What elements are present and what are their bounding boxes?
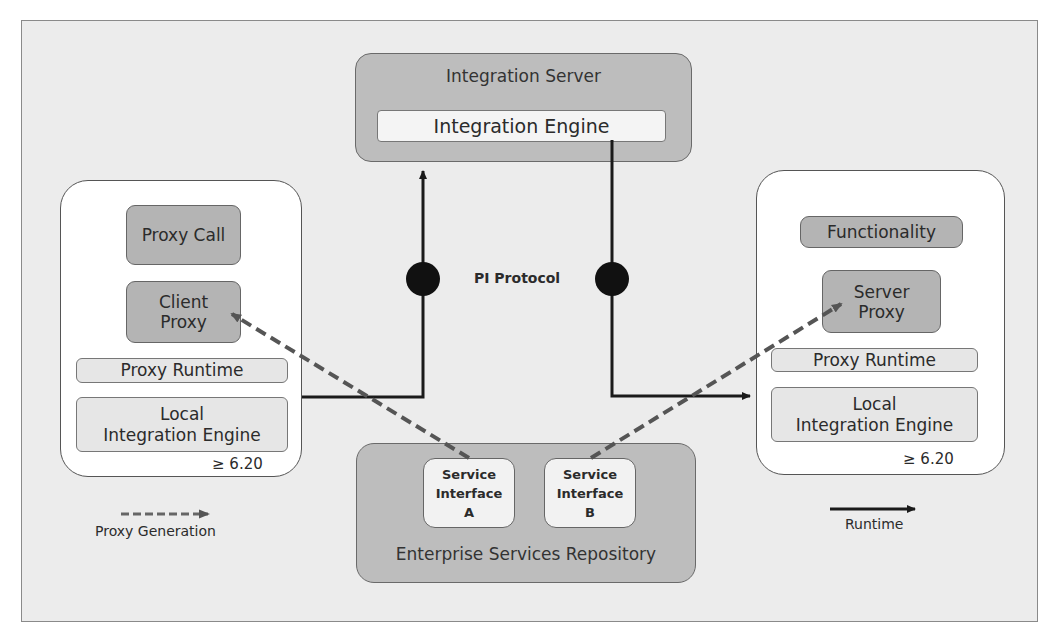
legend-proxy-generation-label: Proxy Generation: [95, 523, 216, 539]
client-local-engine-label-1: Local: [160, 404, 204, 425]
functionality-label: Functionality: [827, 222, 936, 242]
server-proxy-label-2: Proxy: [858, 302, 905, 322]
server-proxy-label-1: Server: [854, 282, 910, 302]
client-proxy-label-2: Proxy: [160, 312, 207, 332]
client-version-label: ≥ 6.20: [212, 455, 263, 473]
service-interface-a: Service Interface A: [423, 458, 515, 528]
proxy-call-box: Proxy Call: [126, 205, 241, 265]
service-interface-a-line2: Interface: [424, 484, 514, 503]
repository-title: Enterprise Services Repository: [357, 544, 695, 564]
client-proxy-runtime: Proxy Runtime: [76, 358, 288, 383]
client-proxy-box: Client Proxy: [126, 281, 241, 343]
service-interface-b-line3: B: [545, 503, 635, 522]
legend-runtime-label: Runtime: [845, 516, 903, 532]
integration-server-title: Integration Server: [356, 66, 691, 86]
service-interface-b-line1: Service: [545, 465, 635, 484]
integration-server: Integration Server Integration Engine: [355, 53, 692, 162]
integration-engine: Integration Engine: [377, 110, 666, 142]
service-interface-a-line1: Service: [424, 465, 514, 484]
server-local-engine-label-2: Integration Engine: [796, 415, 953, 436]
functionality-box: Functionality: [800, 216, 963, 248]
proxy-call-label: Proxy Call: [142, 225, 226, 245]
client-proxy-runtime-label: Proxy Runtime: [121, 360, 244, 381]
service-interface-b-line2: Interface: [545, 484, 635, 503]
client-local-engine-label-2: Integration Engine: [103, 425, 260, 446]
server-local-integration-engine: Local Integration Engine: [771, 387, 978, 442]
server-proxy-runtime: Proxy Runtime: [771, 348, 978, 372]
client-proxy-label-1: Client: [159, 292, 208, 312]
service-interface-a-line3: A: [424, 503, 514, 522]
server-proxy-runtime-label: Proxy Runtime: [813, 350, 936, 371]
enterprise-services-repository: Enterprise Services Repository: [356, 443, 696, 583]
server-version-label: ≥ 6.20: [903, 450, 954, 468]
server-local-engine-label-1: Local: [852, 394, 896, 415]
pi-protocol-label: PI Protocol: [474, 270, 560, 286]
client-local-integration-engine: Local Integration Engine: [76, 397, 288, 452]
server-proxy-box: Server Proxy: [822, 270, 941, 333]
service-interface-b: Service Interface B: [544, 458, 636, 528]
